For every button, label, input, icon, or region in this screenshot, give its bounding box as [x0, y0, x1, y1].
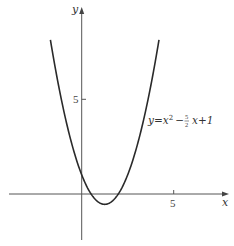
x-axis-label: x	[222, 196, 229, 209]
eq-rest: x+1	[192, 114, 213, 126]
eq-sup: 2	[169, 114, 173, 122]
svg-text:y=x2−: y=x2−	[147, 114, 184, 126]
equation-label: y=x2− 5 2 x+1	[147, 113, 213, 128]
parabola-chart: 5 5 x y y=x2− 5 2 x+1	[0, 0, 234, 246]
x-tick-label-5: 5	[170, 197, 176, 209]
eq-lhs: y=x	[147, 114, 169, 126]
eq-frac-den: 2	[185, 121, 188, 128]
y-axis-label: y	[71, 3, 79, 16]
eq-frac-num: 5	[185, 113, 188, 120]
y-tick-label-5: 5	[73, 93, 79, 105]
y-axis-arrow-icon	[79, 7, 84, 14]
parabola-curve	[50, 40, 159, 204]
eq-minus: −	[175, 114, 184, 126]
